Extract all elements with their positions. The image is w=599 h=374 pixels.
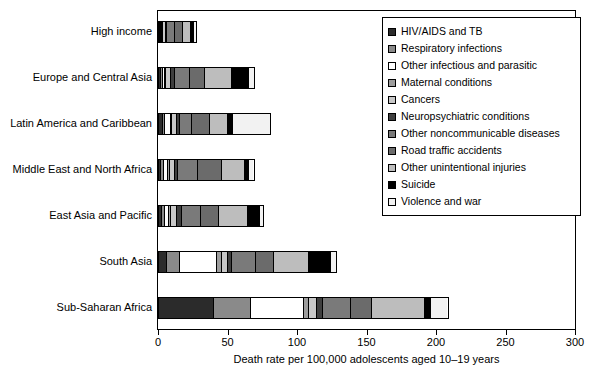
bar-segment[interactable] [372, 298, 426, 318]
bar-segment[interactable] [192, 114, 210, 134]
legend-swatch-icon [388, 130, 396, 138]
legend-swatch-icon [388, 164, 396, 172]
bar-segment[interactable] [180, 252, 217, 272]
bar-segment[interactable] [309, 252, 331, 272]
legend-label: Neuropsychiatric conditions [401, 111, 529, 122]
legend-item[interactable]: Neuropsychiatric conditions [388, 108, 576, 125]
legend-label: Road traffic accidents [401, 145, 502, 156]
legend-item[interactable]: Other unintentional injuries [388, 159, 576, 176]
bar-segment[interactable] [159, 298, 214, 318]
bar-segment[interactable] [167, 22, 175, 42]
stacked-bar[interactable] [158, 251, 337, 273]
bar-row [158, 251, 575, 273]
bar-segment[interactable] [309, 298, 317, 318]
legend-swatch-icon [388, 62, 396, 70]
x-tick-label: 100 [288, 336, 306, 348]
stacked-bar[interactable] [158, 67, 255, 89]
legend-label: Suicide [401, 179, 435, 190]
legend-item[interactable]: Other noncommunicable diseases [388, 125, 576, 142]
legend-item[interactable]: Cancers [388, 91, 576, 108]
bar-segment[interactable] [178, 160, 198, 180]
bar-segment[interactable] [182, 206, 201, 226]
bar-segment[interactable] [180, 114, 192, 134]
bar-segment[interactable] [351, 298, 372, 318]
legend-item[interactable]: HIV/AIDS and TB [388, 23, 576, 40]
legend: HIV/AIDS and TBRespiratory infectionsOth… [382, 17, 581, 216]
bar-segment[interactable] [210, 114, 228, 134]
x-tick-label: 250 [496, 336, 514, 348]
x-tick-label: 0 [155, 336, 161, 348]
legend-label: Other unintentional injuries [401, 162, 526, 173]
bar-segment[interactable] [175, 68, 190, 88]
bar-segment[interactable] [256, 252, 274, 272]
stacked-bar[interactable] [158, 297, 449, 319]
legend-swatch-icon [388, 198, 396, 206]
bar-segment[interactable] [249, 68, 253, 88]
y-axis-label-6: Sub-Saharan Africa [2, 301, 152, 313]
bar-segment[interactable] [233, 114, 269, 134]
bar-segment[interactable] [248, 206, 260, 226]
bar-segment[interactable] [323, 298, 351, 318]
bar-segment[interactable] [249, 160, 254, 180]
legend-swatch-icon [388, 113, 396, 121]
y-axis-labels: High income Europe and Central Asia Lati… [0, 10, 152, 330]
x-tick-label: 300 [566, 336, 584, 348]
x-tick [575, 330, 576, 335]
legend-swatch-icon [388, 79, 396, 87]
legend-swatch-icon [388, 96, 396, 104]
legend-item[interactable]: Violence and war [388, 193, 576, 210]
y-axis-label-1: Europe and Central Asia [2, 71, 152, 83]
legend-label: Other noncommunicable diseases [401, 128, 560, 139]
bar-segment[interactable] [219, 206, 248, 226]
bar-segment[interactable] [194, 22, 196, 42]
bar-segment[interactable] [183, 22, 191, 42]
legend-label: Violence and war [401, 196, 481, 207]
bar-segment[interactable] [198, 160, 221, 180]
stacked-bar[interactable] [158, 21, 197, 43]
stacked-bar[interactable] [158, 113, 271, 135]
legend-label: Other infectious and parasitic [401, 60, 537, 71]
x-tick [506, 330, 507, 335]
bar-segment[interactable] [159, 252, 167, 272]
bar-segment[interactable] [175, 22, 183, 42]
legend-item[interactable]: Road traffic accidents [388, 142, 576, 159]
legend-label: Respiratory infections [401, 43, 502, 54]
bar-segment[interactable] [274, 252, 310, 272]
legend-swatch-icon [388, 147, 396, 155]
bar-segment[interactable] [232, 252, 255, 272]
x-tick-label: 150 [357, 336, 375, 348]
legend-swatch-icon [388, 45, 396, 53]
x-axis: 050100150200250300 Death rate per 100,00… [157, 330, 576, 374]
x-tick [436, 330, 437, 335]
legend-item[interactable]: Suicide [388, 176, 576, 193]
x-tick [297, 330, 298, 335]
legend-items: HIV/AIDS and TBRespiratory infectionsOth… [388, 23, 576, 210]
y-axis-label-3: Middle East and North Africa [2, 163, 152, 175]
x-axis-title: Death rate per 100,000 adolescents aged … [157, 353, 576, 365]
x-tick [367, 330, 368, 335]
legend-item[interactable]: Other infectious and parasitic [388, 57, 576, 74]
bar-segment[interactable] [232, 68, 250, 88]
bar-segment[interactable] [331, 252, 336, 272]
legend-label: HIV/AIDS and TB [401, 26, 483, 37]
bar-segment[interactable] [214, 298, 251, 318]
legend-label: Cancers [401, 94, 440, 105]
stacked-bar[interactable] [158, 205, 264, 227]
bar-segment[interactable] [167, 252, 181, 272]
bar-segment[interactable] [222, 160, 245, 180]
bar-segment[interactable] [260, 206, 263, 226]
y-axis-label-5: South Asia [2, 255, 152, 267]
x-tick-label: 50 [221, 336, 233, 348]
bar-segment[interactable] [190, 68, 205, 88]
bar-segment[interactable] [205, 68, 232, 88]
legend-item[interactable]: Maternal conditions [388, 74, 576, 91]
stacked-bar[interactable] [158, 159, 255, 181]
bar-segment[interactable] [431, 298, 448, 318]
bar-segment[interactable] [201, 206, 219, 226]
legend-item[interactable]: Respiratory infections [388, 40, 576, 57]
bar-row [158, 297, 575, 319]
bar-segment[interactable] [251, 298, 303, 318]
x-tick [158, 330, 159, 335]
legend-swatch-icon [388, 181, 396, 189]
legend-swatch-icon [388, 28, 396, 36]
